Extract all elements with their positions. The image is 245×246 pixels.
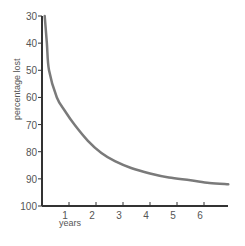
y-tick-label: 90 (26, 174, 38, 185)
x-tick-label: 4 (143, 210, 149, 221)
x-axis-label: years (59, 218, 82, 228)
y-tick-label: 40 (26, 38, 38, 49)
y-tick-label: 60 (26, 92, 38, 103)
series-line (45, 16, 229, 184)
data-series (45, 16, 229, 184)
x-tick-label: 2 (89, 210, 95, 221)
y-tick-label: 30 (26, 11, 38, 22)
y-tick-label: 80 (26, 147, 38, 158)
x-tick-label: 5 (170, 210, 176, 221)
x-tick-label: 3 (116, 210, 122, 221)
y-tick-label: 50 (26, 65, 38, 76)
line-chart: 30405060708090100 123456 years percentag… (0, 0, 245, 246)
x-tick-label: 6 (197, 210, 203, 221)
y-tick-label: 70 (26, 120, 38, 131)
y-tick-label: 100 (20, 201, 37, 212)
y-axis-label: percentage lost (12, 58, 22, 120)
y-axis: 30405060708090100 (20, 11, 42, 212)
